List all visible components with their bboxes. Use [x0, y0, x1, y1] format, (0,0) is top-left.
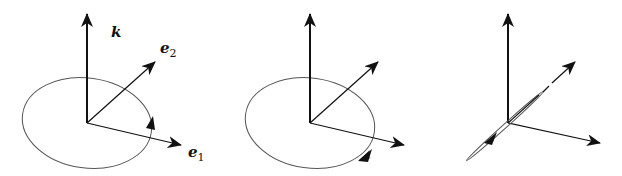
e1-axis-arrow: [87, 123, 181, 145]
e2-axis-arrow: [87, 62, 155, 123]
e2-axis-arrow-dashed: [543, 86, 549, 92]
panel-1: k e2 e1: [16, 14, 204, 176]
k-label: k: [111, 23, 121, 41]
e1-axis-arrow: [310, 123, 404, 145]
e2-axis-arrow: [508, 95, 539, 123]
panel-2: [239, 14, 404, 176]
e2-label: e2: [160, 39, 177, 60]
diagram-canvas: k e2 e1: [0, 0, 622, 176]
e2-axis-arrow: [310, 62, 378, 123]
e1-axis-arrow: [508, 123, 600, 143]
e2-axis-arrow-tip: [552, 62, 575, 83]
panel-3: [465, 14, 600, 162]
rotation-arrowhead-icon: [484, 132, 497, 145]
e1-label: e1: [188, 143, 205, 164]
